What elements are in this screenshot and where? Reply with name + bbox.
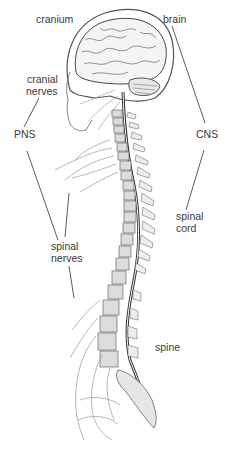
leader-brain-cns [172, 26, 205, 123]
label-spinal-nerves-line2: nerves [51, 252, 83, 264]
label-spinal-cord-line1: spinal [176, 210, 203, 222]
leader-spinal-nerves-up [65, 193, 69, 237]
label-cranial-nerves-line2: nerves [26, 85, 58, 97]
label-pns: PNS [14, 128, 36, 140]
leader-pns-spinal-nerves [27, 151, 58, 240]
label-spinal-cord-line2: cord [176, 222, 196, 234]
leader-cranial-nerves-pns [24, 98, 39, 127]
label-cranium: cranium [36, 13, 73, 25]
leader-cns-spinal-cord [186, 150, 204, 210]
label-cns: CNS [196, 128, 218, 140]
label-spinal-nerves-line1: spinal [51, 240, 78, 252]
label-cranial-nerves-line1: cranial [27, 73, 58, 85]
label-brain: brain [163, 13, 186, 25]
label-spine: spine [155, 341, 180, 353]
cerebellum [129, 78, 160, 96]
leader-spinal-nerves-down [69, 266, 74, 298]
